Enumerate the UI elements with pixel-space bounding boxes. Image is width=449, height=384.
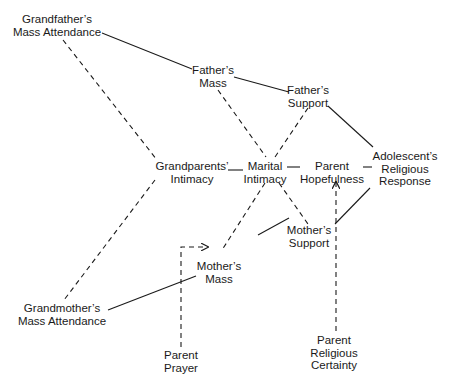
- edge-f-support-to-marital: [275, 108, 308, 157]
- node-parent-religious-certainty: Parent Religious Certainty: [310, 334, 357, 372]
- node-label-line: Grandfather’s: [13, 13, 101, 26]
- edge-m-support-to-adol: [335, 188, 370, 224]
- edge-gf-mass-to-gp: [63, 40, 157, 160]
- node-label-line: Support: [287, 97, 329, 110]
- node-grandparents-intimacy: Grandparents’ Intimacy: [156, 160, 229, 185]
- node-label-line: Religious: [373, 163, 438, 176]
- edge-marital-to-m-mass: [222, 183, 265, 250]
- node-label-line: Intimacy: [156, 173, 229, 186]
- node-label-line: Response: [373, 175, 438, 188]
- node-label-line: Religious: [310, 347, 357, 360]
- node-label-line: Grandmother’s: [18, 302, 106, 315]
- node-grandmothers-mass-attendance: Grandmother’s Mass Attendance: [18, 302, 106, 327]
- node-label-line: Hopefulness: [300, 173, 364, 186]
- path-diagram: Grandfather’s Mass Attendance Father’s M…: [0, 0, 449, 384]
- edge-f-support-to-adol: [328, 106, 373, 147]
- node-label-line: Grandparents’: [156, 160, 229, 173]
- node-label-line: Mass Attendance: [13, 26, 101, 39]
- node-label-line: Certainty: [310, 359, 357, 372]
- edge-gm-mass-to-m-mass: [108, 276, 196, 310]
- node-label-line: Mass: [192, 77, 234, 90]
- node-label-line: Support: [287, 237, 331, 250]
- node-label-line: Intimacy: [244, 173, 287, 186]
- node-fathers-mass: Father’s Mass: [192, 64, 234, 89]
- node-label-line: Mother’s: [197, 260, 241, 273]
- node-label-line: Parent: [300, 160, 364, 173]
- node-parent-prayer: Parent Prayer: [164, 349, 198, 374]
- node-label-line: Mother’s: [287, 224, 331, 237]
- node-label-line: Father’s: [192, 64, 234, 77]
- node-marital-intimacy: Marital Intimacy: [244, 160, 287, 185]
- edge-marital-to-m-support: [279, 183, 308, 224]
- node-label-line: Father’s: [287, 84, 329, 97]
- node-label-line: Mass: [197, 273, 241, 286]
- node-parent-hopefulness: Parent Hopefulness: [300, 160, 364, 185]
- node-adolescents-religious-response: Adolescent’s Religious Response: [373, 150, 438, 188]
- edge-m-mass-to-m-support: [258, 218, 289, 235]
- edge-f-mass-to-marital: [218, 90, 266, 157]
- node-label-line: Prayer: [164, 362, 198, 375]
- edge-gf-mass-to-f-mass: [102, 33, 192, 69]
- node-label-line: Marital: [244, 160, 287, 173]
- node-fathers-support: Father’s Support: [287, 84, 329, 109]
- node-label-line: Adolescent’s: [373, 150, 438, 163]
- node-mothers-support: Mother’s Support: [287, 224, 331, 249]
- edge-gp-to-gm-mass: [64, 180, 155, 300]
- node-label-line: Mass Attendance: [18, 315, 106, 328]
- edge-f-mass-to-f-support: [234, 77, 289, 92]
- node-grandfathers-mass-attendance: Grandfather’s Mass Attendance: [13, 13, 101, 38]
- node-label-line: Parent: [164, 349, 198, 362]
- node-mothers-mass: Mother’s Mass: [197, 260, 241, 285]
- node-label-line: Parent: [310, 334, 357, 347]
